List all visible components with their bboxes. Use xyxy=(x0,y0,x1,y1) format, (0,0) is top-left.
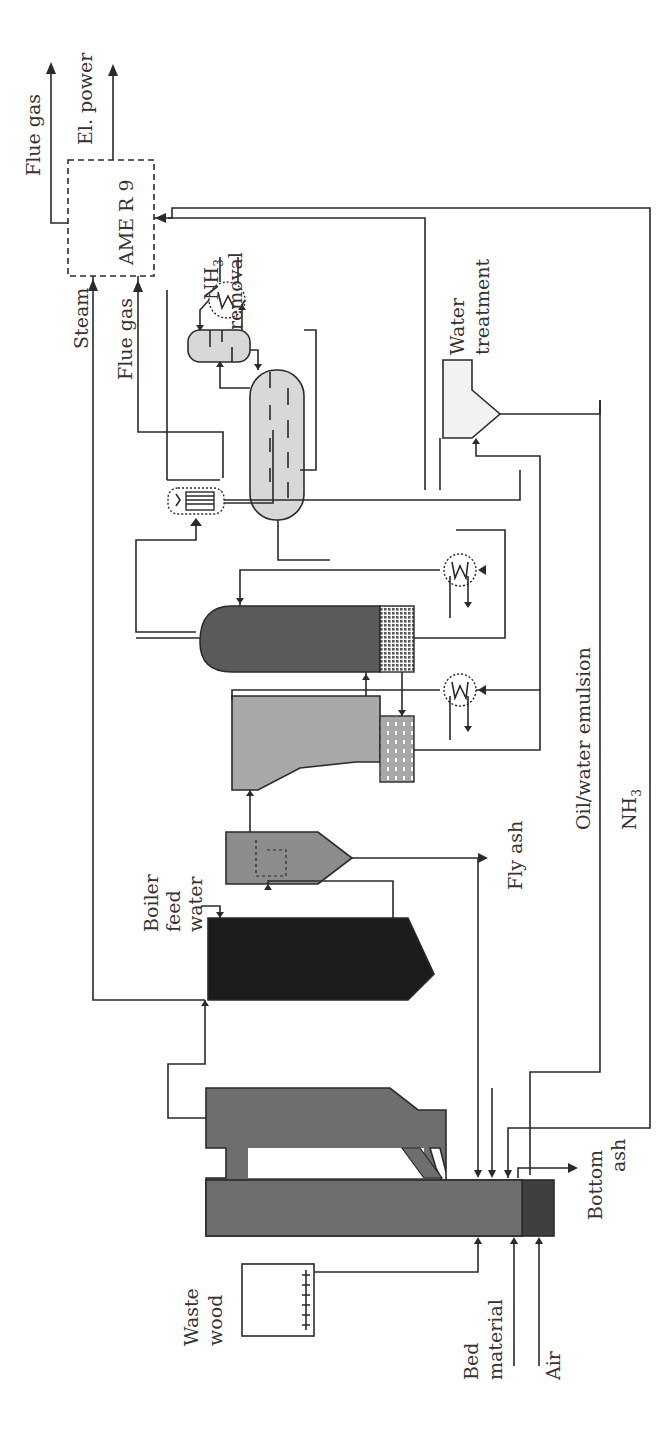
water-treatment-label-1: Water xyxy=(446,297,468,355)
cooler-1 xyxy=(444,554,486,618)
scrubber-water-line xyxy=(476,440,540,690)
cooler-1-body xyxy=(444,554,476,586)
engine-box xyxy=(68,160,154,276)
heat-exchanger-unit xyxy=(168,488,224,514)
fly-ash-label: Fly ash xyxy=(504,821,526,890)
waste-wood-arrow xyxy=(474,1237,482,1244)
scrubber-down-arrow xyxy=(398,710,406,716)
column-feed-arrow xyxy=(236,598,244,604)
water-treatment-label-2: treatment xyxy=(471,259,493,355)
boiler-to-cyclone-line xyxy=(268,881,393,918)
air-arrow xyxy=(535,1237,543,1244)
process-flow-diagram: AME R 9 Flue gas El. power Steam Flue ga… xyxy=(0,0,666,1429)
column-top-feed xyxy=(240,570,440,606)
nh3-return-arrow xyxy=(504,1170,512,1178)
nh3-column xyxy=(250,370,304,520)
column-to-drum-line xyxy=(220,362,250,388)
bottom-ash-arrow xyxy=(568,1163,578,1173)
scrubber-up-arrow xyxy=(362,674,370,680)
steam-label: Steam xyxy=(70,288,92,349)
cooler-2 xyxy=(444,674,486,740)
oil-water-label: Oil/water emulsion xyxy=(572,647,594,830)
scrubber-right-loop xyxy=(414,690,540,750)
water-treatment-in-arrow xyxy=(472,438,480,444)
fly-ash-return-arrow xyxy=(474,1170,482,1178)
scrubber-packing xyxy=(380,716,414,782)
water-treatment-vessel xyxy=(443,360,500,438)
scrubber-loop-line xyxy=(232,690,440,696)
air-label: Air xyxy=(542,1350,564,1381)
column-bottom-line xyxy=(278,520,330,560)
nh3-label: NH3 xyxy=(618,789,644,830)
boiler-in-arrow xyxy=(201,1000,209,1006)
bed-material-arrow xyxy=(510,1237,518,1244)
bottom-ash-label-2: ash xyxy=(607,1139,629,1172)
flue-gas-in-label: Flue gas xyxy=(114,298,136,380)
boiler-unit xyxy=(208,918,434,1000)
drum-down-arrow xyxy=(254,364,262,370)
flue-gas-out-arrow xyxy=(46,62,56,74)
hx-to-column-line xyxy=(136,526,196,632)
boiler-feed-label-3: water xyxy=(184,876,206,932)
bed-material-label-1: Bed xyxy=(460,1343,482,1380)
boiler-feed-label-2: feed xyxy=(162,890,184,932)
cyclone-unit xyxy=(226,832,352,884)
cooler-1-out-arrow xyxy=(464,602,472,608)
scrubber-body xyxy=(232,696,380,790)
el-power-label: El. power xyxy=(74,52,96,145)
boiler-feed-arrow xyxy=(216,912,224,918)
cooler-2-out-arrow xyxy=(464,726,472,732)
boiler-body xyxy=(208,918,434,1000)
scrubber-unit xyxy=(232,696,414,790)
bottom-ash-label-1: Bottom xyxy=(584,1150,606,1220)
engine-unit: AME R 9 xyxy=(68,160,154,276)
flue-gas-in-arrow xyxy=(133,280,143,292)
water-treatment-unit: Water treatment xyxy=(443,259,500,438)
cyclone-out-arrow xyxy=(246,790,254,796)
engine-label: AME R 9 xyxy=(115,179,137,266)
engine-return-arrow xyxy=(155,213,166,223)
cooler-2-in-arrow xyxy=(478,685,486,695)
cooler-2-body xyxy=(444,674,476,706)
boiler-feed-label-1: Boiler xyxy=(140,873,162,932)
cyclone-body xyxy=(226,832,352,884)
waste-wood-feed-line xyxy=(314,1244,478,1272)
gasifier-bed-zone xyxy=(522,1180,554,1236)
nh3-removal-label-2: removal xyxy=(224,252,246,330)
gasifier-bottom xyxy=(206,1180,522,1236)
hx-arrow xyxy=(190,518,202,526)
gasifier-to-boiler-line xyxy=(168,1000,208,1118)
column-packing xyxy=(380,606,414,672)
fly-ash-arrow xyxy=(478,853,488,863)
heat-exchanger-tubes xyxy=(186,492,214,510)
nh3-loop-line xyxy=(167,290,220,480)
bottom-ash-line xyxy=(518,1168,572,1178)
oil-water-from-wt xyxy=(500,400,600,414)
scrubber-column xyxy=(200,606,380,672)
gasifier-riser-gap xyxy=(248,1148,424,1178)
waste-wood-label-1: Waste xyxy=(180,1288,202,1346)
scrubber-column-unit xyxy=(200,606,414,672)
flue-gas-out-label: Flue gas xyxy=(22,94,44,176)
waste-wood-hopper xyxy=(242,1264,314,1336)
bed-material-label-2: material xyxy=(484,1299,506,1380)
el-power-arrow xyxy=(108,64,118,76)
cyclone-in-arrow xyxy=(264,884,272,890)
flue-gas-out-line xyxy=(51,66,68,223)
waste-wood-label-2: wood xyxy=(204,1295,226,1346)
cooler-1-in-arrow xyxy=(478,565,486,575)
nh3-reflux-drum xyxy=(188,330,250,362)
gasifier-unit xyxy=(206,1088,554,1236)
oil-water-arrow xyxy=(488,1170,496,1178)
